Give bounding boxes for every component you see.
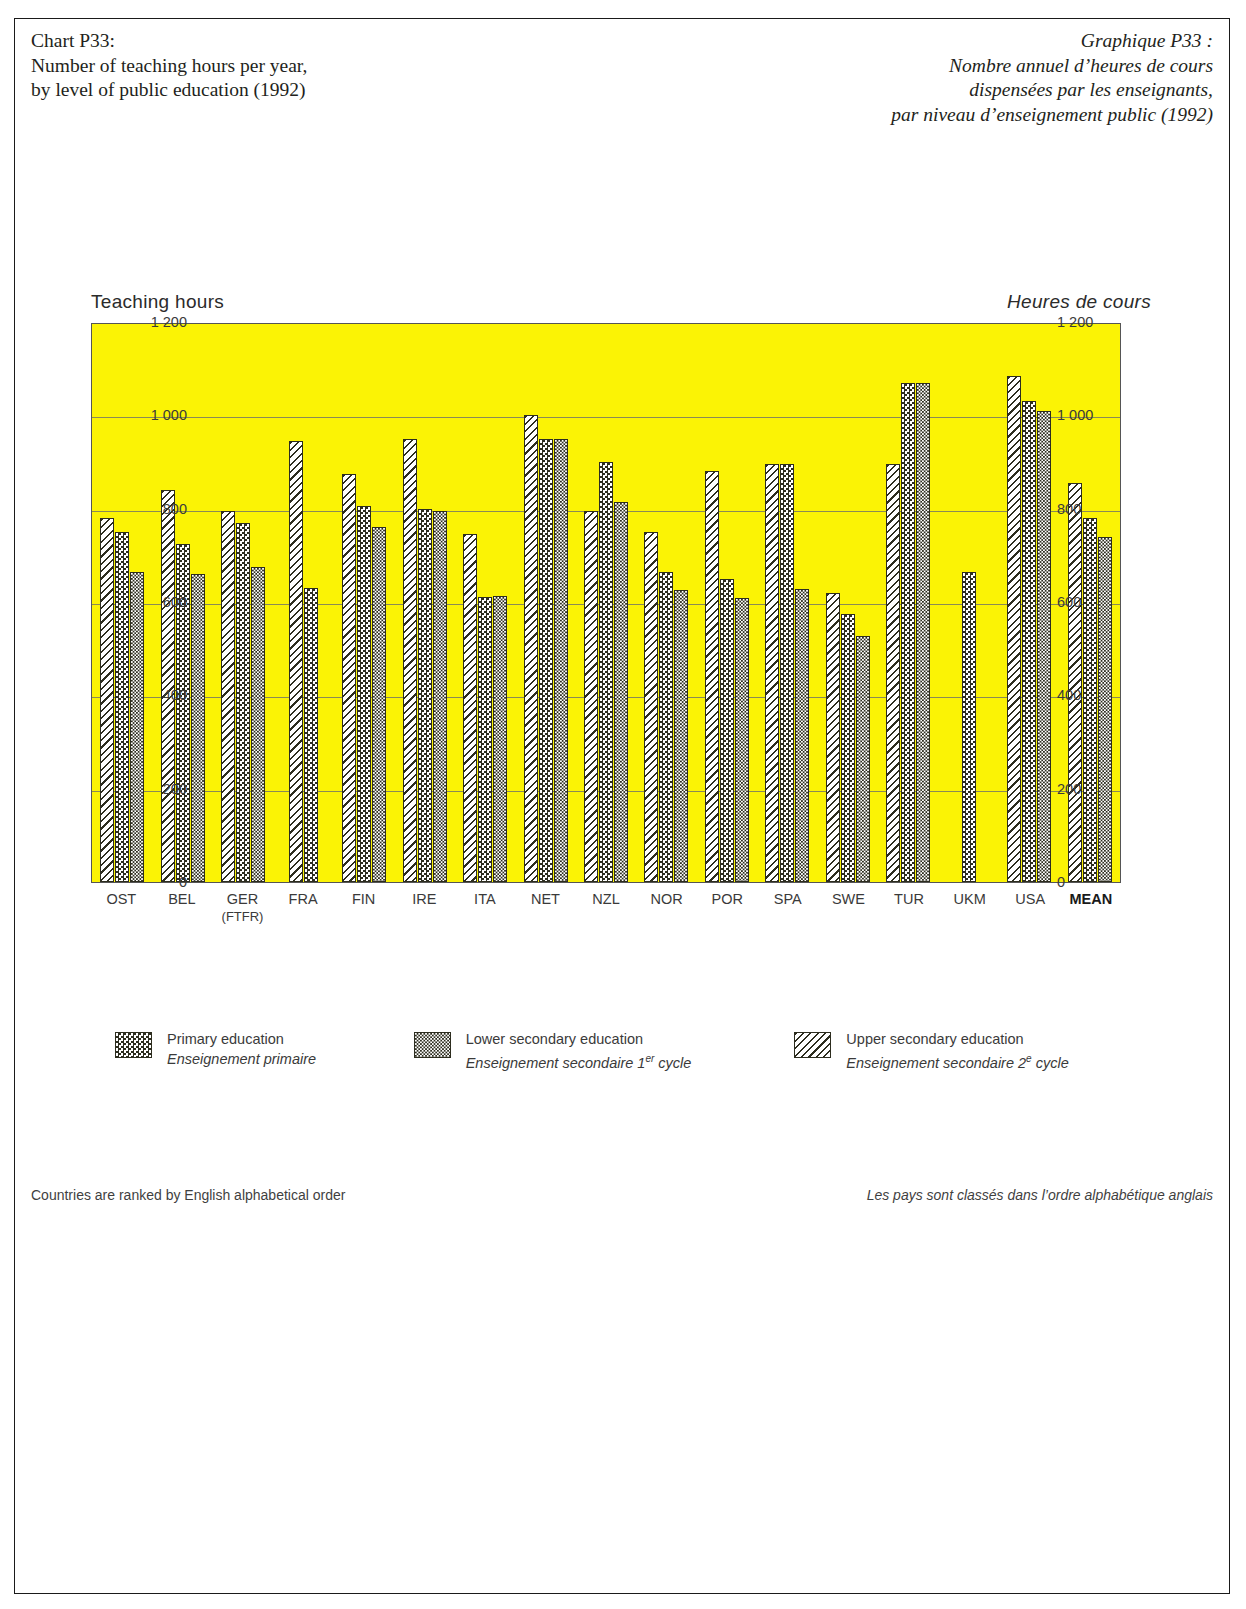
x-axis-label-tur: TUR (879, 891, 940, 939)
bar (674, 590, 688, 882)
bar (599, 462, 613, 882)
legend-label-french: Enseignement secondaire 2e cycle (846, 1049, 1068, 1073)
bar (403, 439, 417, 882)
chart-legend: Primary education Enseignement primaire … (115, 1029, 1175, 1081)
bar (433, 511, 447, 882)
bar (289, 441, 303, 882)
x-axis-label-mean: MEAN (1061, 891, 1122, 939)
bar (478, 597, 492, 882)
bar (826, 593, 840, 882)
y-tick-label-right: 1 200 (1057, 314, 1127, 330)
legend-item: Lower secondary education Enseignement s… (414, 1029, 795, 1081)
x-axis-label-ger: GER(FTFR) (212, 891, 273, 939)
x-axis-label-ukm: UKM (939, 891, 1000, 939)
bar (659, 572, 673, 882)
bar-group (878, 324, 938, 882)
bar (372, 527, 386, 882)
bar (780, 464, 794, 882)
bar (357, 506, 371, 882)
legend-label-french: Enseignement secondaire 1er cycle (466, 1049, 692, 1073)
x-axis-sublabel: (FTFR) (212, 908, 273, 925)
bar (886, 464, 900, 882)
bar-group (999, 324, 1059, 882)
bar (554, 439, 568, 882)
y-tick-label-right: 0 (1057, 874, 1127, 890)
bar-group (334, 324, 394, 882)
plot-area (91, 323, 1121, 883)
legend-label-french: Enseignement primaire (167, 1049, 316, 1069)
x-axis-label-nor: NOR (636, 891, 697, 939)
y-tick-label-left: 200 (127, 781, 187, 797)
chart-page: Chart P33: Number of teaching hours per … (14, 18, 1230, 1594)
bar-group (939, 324, 999, 882)
y-tick-label-left: 0 (127, 874, 187, 890)
bar (1098, 537, 1112, 882)
bar (584, 511, 598, 882)
x-axis-label-usa: USA (1000, 891, 1061, 939)
bar (856, 636, 870, 882)
x-axis-label-swe: SWE (818, 891, 879, 939)
legend-label-english: Lower secondary education (466, 1029, 692, 1049)
bar (115, 532, 129, 882)
y-tick-label-left: 1 200 (127, 314, 187, 330)
legend-swatch-lower-secondary-icon (414, 1032, 451, 1058)
legend-swatch-primary-icon (115, 1032, 152, 1058)
footnote-english: Countries are ranked by English alphabet… (31, 1187, 345, 1203)
y-tick-label-right: 200 (1057, 781, 1127, 797)
bar (236, 523, 250, 882)
bar-group (818, 324, 878, 882)
bar (539, 439, 553, 882)
bar-group (636, 324, 696, 882)
y-tick-label-right: 400 (1057, 687, 1127, 703)
bar (795, 589, 809, 882)
bar (644, 532, 658, 882)
x-axis-labels: OSTBELGER(FTFR)FRAFINIREITANETNZLNORPORS… (91, 891, 1121, 939)
legend-label-english: Upper secondary education (846, 1029, 1068, 1049)
bar (1037, 411, 1051, 882)
x-axis-label-ita: ITA (455, 891, 516, 939)
legend-item: Upper secondary education Enseignement s… (794, 1029, 1175, 1081)
y-tick-label-left: 800 (127, 501, 187, 517)
bar-group (576, 324, 636, 882)
y-tick-label-left: 1 000 (127, 407, 187, 423)
x-axis-label-por: POR (697, 891, 758, 939)
bar (1007, 376, 1021, 882)
x-axis-label-fra: FRA (273, 891, 334, 939)
x-axis-label-ire: IRE (394, 891, 455, 939)
y-tick-label-left: 400 (127, 687, 187, 703)
bar-group (757, 324, 817, 882)
bar-group (213, 324, 273, 882)
bar (221, 511, 235, 882)
legend-label-english: Primary education (167, 1029, 316, 1049)
bar (342, 474, 356, 882)
bar-group (697, 324, 757, 882)
bar (614, 502, 628, 882)
bar (418, 509, 432, 882)
bar (765, 464, 779, 882)
bar (1068, 483, 1082, 882)
bar (251, 567, 265, 882)
bar-groups (92, 324, 1120, 882)
page-title-french: Graphique P33 : Nombre annuel d’heures d… (891, 29, 1213, 127)
bar (161, 490, 175, 882)
bar-group (394, 324, 454, 882)
x-axis-label-fin: FIN (333, 891, 394, 939)
x-axis-label-ost: OST (91, 891, 152, 939)
bar (463, 534, 477, 882)
x-axis-label-net: NET (515, 891, 576, 939)
footnote-french: Les pays sont classés dans l’ordre alpha… (867, 1187, 1213, 1203)
y-tick-label-right: 800 (1057, 501, 1127, 517)
bar (191, 574, 205, 882)
bar-group (515, 324, 575, 882)
y-tick-label-right: 1 000 (1057, 407, 1127, 423)
legend-swatch-upper-secondary-icon (794, 1032, 831, 1058)
bar (720, 579, 734, 882)
bar (962, 572, 976, 882)
bar (705, 471, 719, 882)
y-tick-label-right: 600 (1057, 594, 1127, 610)
bar (916, 383, 930, 882)
bar (130, 572, 144, 882)
y-axis-title-french: Heures de cours (1007, 291, 1151, 313)
bar-group (455, 324, 515, 882)
bar (493, 596, 507, 882)
